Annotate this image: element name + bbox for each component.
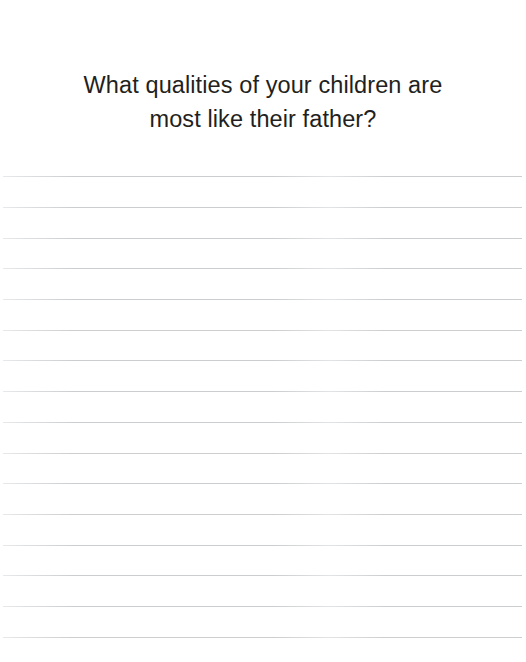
answer-line[interactable]	[3, 391, 522, 392]
answer-line[interactable]	[3, 238, 522, 239]
journal-page: What qualities of your children are most…	[0, 0, 526, 662]
answer-line[interactable]	[3, 453, 522, 454]
answer-line[interactable]	[3, 299, 522, 300]
answer-line[interactable]	[3, 207, 522, 208]
prompt-question: What qualities of your children are most…	[58, 68, 468, 136]
answer-line[interactable]	[3, 176, 522, 177]
answer-line[interactable]	[3, 545, 522, 546]
answer-line[interactable]	[3, 606, 522, 607]
answer-line[interactable]	[3, 575, 522, 576]
answer-line[interactable]	[3, 483, 522, 484]
page-title: What qualities of your children are most…	[58, 68, 468, 136]
answer-line[interactable]	[3, 637, 522, 638]
answer-line[interactable]	[3, 268, 522, 269]
answer-line[interactable]	[3, 330, 522, 331]
answer-line[interactable]	[3, 514, 522, 515]
answer-line[interactable]	[3, 422, 522, 423]
answer-line[interactable]	[3, 360, 522, 361]
